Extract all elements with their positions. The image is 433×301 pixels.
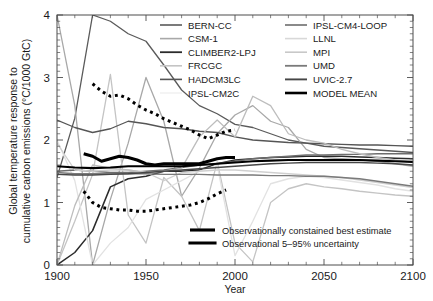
x-tick-label: 1900 — [44, 270, 70, 282]
legend-label: CLIMBER2-LPJ — [188, 47, 256, 58]
inset-legend-label: Observational 5–95% uncertainty — [222, 239, 359, 249]
y-tick-label: 2 — [44, 134, 50, 146]
y-axis-title: Global temperature response to cumulativ… — [7, 39, 32, 243]
legend-label: MODEL MEAN — [313, 88, 377, 99]
y-tick-label: 3 — [44, 72, 50, 84]
x-axis-title: Year — [224, 283, 246, 295]
y-tick-label: 1 — [44, 197, 50, 209]
chart-figure: Global temperature response to cumulativ… — [0, 0, 433, 301]
legend-label: FRCGC — [188, 60, 222, 71]
legend-label: LLNL — [313, 33, 337, 44]
temperature-response-line-chart: Global temperature response to cumulativ… — [0, 0, 433, 301]
legend-label: HADCM3LC — [188, 74, 241, 85]
legend-label: IPSL-CM4-LOOP — [313, 20, 387, 31]
legend-label: IPSL-CM2C — [188, 88, 239, 99]
legend-label: MPI — [313, 47, 330, 58]
x-tick-label: 1950 — [133, 270, 159, 282]
x-tick-label: 2100 — [400, 270, 426, 282]
legend-label: CSM-1 — [188, 33, 218, 44]
legend-label: UMD — [313, 60, 335, 71]
x-tick-label: 2000 — [222, 270, 248, 282]
x-tick-label: 2050 — [311, 270, 337, 282]
y-axis-title-line2: cumulative carbon emissions (°C/1000 GtC… — [20, 39, 32, 243]
y-tick-label: 4 — [44, 9, 51, 21]
y-axis-title-line1: Global temperature response to — [7, 67, 19, 215]
legend-label: UVIC-2.7 — [313, 74, 352, 85]
legend-label: BERN-CC — [188, 20, 232, 31]
inset-legend-label: Observationally constained best estimate — [222, 226, 392, 236]
